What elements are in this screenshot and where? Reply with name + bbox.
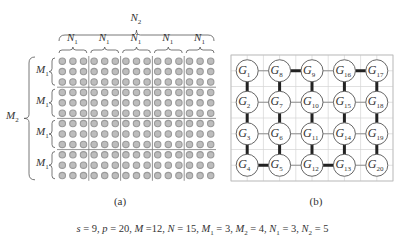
node-g20: G20 (368, 157, 384, 173)
node-g2: G2 (238, 94, 250, 110)
s-value: 9 (92, 223, 97, 234)
node-g7: G7 (271, 94, 283, 110)
node-g9: G9 (303, 63, 315, 79)
n-value: 15 (186, 223, 197, 234)
n1-value: 3 (291, 223, 296, 234)
m2-value: 4 (259, 223, 264, 234)
node-g6: G6 (271, 126, 283, 142)
node-g15: G15 (335, 94, 351, 110)
node-g8: G8 (271, 63, 283, 79)
node-g18: G18 (368, 94, 384, 110)
figure-caption: s = 9, p = 20, M =12, N = 15, M1 = 3, M2… (0, 223, 405, 237)
node-g17: G17 (368, 63, 384, 79)
m1-value: 3 (225, 223, 230, 234)
node-g5: G5 (271, 157, 283, 173)
node-g16: G16 (335, 63, 351, 79)
m-value: 12 (152, 223, 163, 234)
p-value: 20 (119, 223, 130, 234)
panel-b-graph (0, 0, 405, 244)
node-g19: G19 (368, 126, 384, 142)
node-g4: G4 (238, 157, 250, 173)
panel-b-caption: (b) (296, 195, 336, 207)
node-g14: G14 (335, 126, 351, 142)
node-g11: G11 (303, 126, 318, 142)
node-g12: G12 (303, 157, 319, 173)
node-g10: G10 (303, 94, 319, 110)
n2-value: 5 (323, 223, 328, 234)
node-g1: G1 (238, 63, 250, 79)
node-g3: G3 (238, 126, 250, 142)
node-g13: G13 (335, 157, 351, 173)
